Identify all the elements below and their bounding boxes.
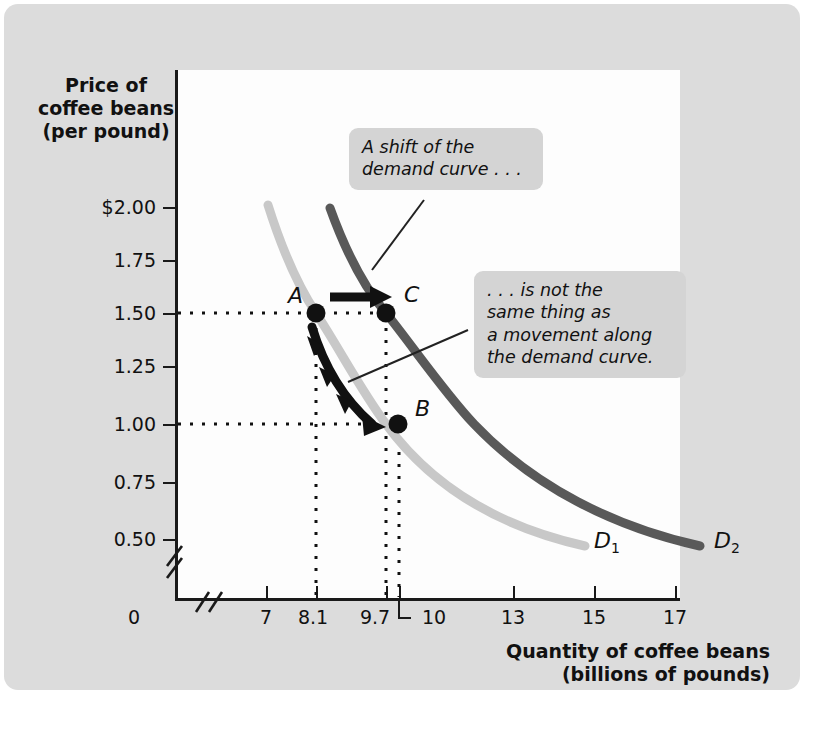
ten-tick-bracket <box>399 600 411 618</box>
movement-callout-line-4: the demand curve. <box>487 346 673 368</box>
point-label-c: C <box>404 282 419 307</box>
shift-callout: A shift of the demand curve . . . <box>349 128 543 190</box>
shift-callout-line-2: demand curve . . . <box>362 158 530 180</box>
curve-label-d1-sub: 1 <box>611 540 620 556</box>
curve-label-d1: D1 <box>594 528 620 556</box>
movement-callout-line-2: same thing as <box>487 301 673 323</box>
movement-arrow <box>307 327 386 436</box>
movement-callout-line-1: . . . is not the <box>487 279 673 301</box>
curve-label-d2-base: D <box>714 528 731 553</box>
x-axis-break-icon <box>196 592 222 612</box>
chart-graphics <box>0 0 834 735</box>
point-label-b: B <box>415 396 430 421</box>
movement-callout: . . . is not the same thing as a movemen… <box>474 271 686 378</box>
y-axis-break-icon <box>167 546 182 578</box>
guide-lines <box>178 313 399 597</box>
curve-label-d2: D2 <box>714 528 740 556</box>
movement-callout-line-3: a movement along <box>487 324 673 346</box>
data-point-a[interactable] <box>307 304 326 323</box>
shift-callout-line-1: A shift of the <box>362 136 530 158</box>
curve-label-d2-sub: 2 <box>731 540 740 556</box>
shift-callout-leader-line <box>372 200 424 270</box>
figure-root: $2.00 1.75 1.50 1.25 1.00 0.75 0.50 7 8.… <box>0 0 834 735</box>
point-label-a: A <box>288 283 303 308</box>
curve-label-d1-base: D <box>594 528 611 553</box>
data-point-c[interactable] <box>377 304 396 323</box>
data-point-b[interactable] <box>389 415 408 434</box>
